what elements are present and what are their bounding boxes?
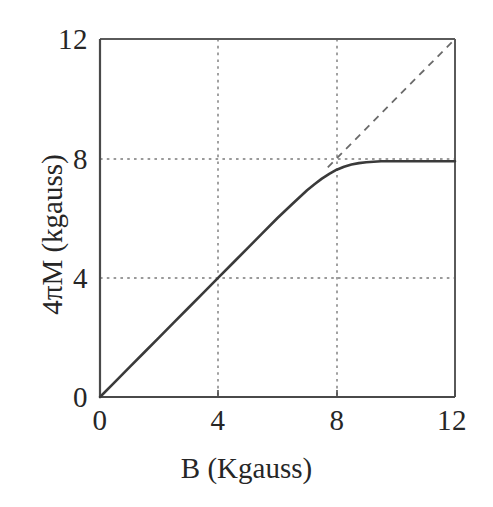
- ideal-reference-line: [328, 39, 455, 167]
- x-tick-label-8: 8: [317, 406, 357, 435]
- x-tick-label-0: 0: [80, 406, 120, 435]
- plot-canvas: [0, 0, 493, 507]
- magnetization-curve: [100, 161, 455, 397]
- x-axis-title: B (Kgauss): [0, 452, 493, 485]
- y-axis-title: 4πM (kgauss): [36, 105, 69, 365]
- magnetization-chart-figure: 12 8 4 0 0 4 8 12 B (Kgauss) 4πM (kgauss…: [0, 0, 493, 507]
- x-tick-label-4: 4: [198, 406, 238, 435]
- y-tick-label-12: 12: [50, 25, 88, 54]
- x-tick-label-12: 12: [430, 406, 474, 435]
